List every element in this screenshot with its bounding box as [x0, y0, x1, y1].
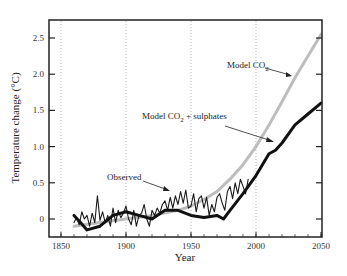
x-tick-label: 1900 [117, 241, 136, 251]
svg-text:Observed: Observed [107, 172, 142, 182]
y-tick-label: 2.5 [33, 33, 45, 43]
y-tick-label: 0.5 [33, 178, 45, 188]
temperature-chart: 1850190019502000205000.51.01.52.02.5 Yea… [0, 0, 347, 276]
series-model-co2 [74, 34, 321, 226]
x-tick-label: 2050 [312, 241, 331, 251]
plot-frame [49, 20, 322, 237]
annotation-model-co2-sulphates: Model CO2 + sulphates [142, 111, 274, 142]
y-tick-label: 1.0 [33, 142, 45, 152]
x-tick-label: 1850 [52, 241, 71, 251]
x-axis-title: Year [175, 251, 196, 263]
series-model-co2-sulphates [74, 103, 321, 230]
annotation-model-co2: Model CO2 [227, 60, 292, 77]
svg-text:Model CO2: Model CO2 [227, 60, 269, 73]
grid-lines [61, 21, 256, 236]
y-tick-label: 0 [40, 214, 45, 224]
y-tick-label: 2.0 [33, 69, 45, 79]
x-tick-label: 2000 [247, 241, 266, 251]
y-tick-label: 1.5 [33, 105, 45, 115]
y-axis-title: Temperature change (°C) [9, 72, 22, 183]
annotation-observed: Observed [107, 172, 170, 191]
series-group [74, 34, 321, 230]
svg-text:Model CO2 + sulphates: Model CO2 + sulphates [142, 111, 227, 124]
x-tick-label: 1950 [182, 241, 201, 251]
